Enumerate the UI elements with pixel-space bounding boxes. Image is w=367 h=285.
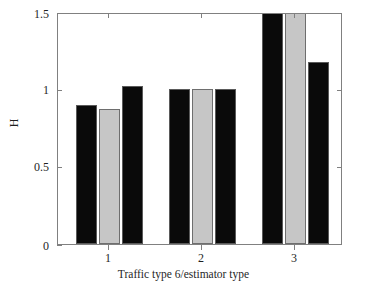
bar-group2-series1 (169, 89, 190, 244)
bar-group2-series2 (192, 89, 213, 244)
ytick-label-1_5: 1.5 (3, 8, 49, 20)
xtick-label-2: 2 (181, 252, 221, 265)
ytick-mark-1_5 (57, 13, 62, 14)
xtick-mark-top-1 (108, 13, 109, 18)
y-axis-title: H (8, 103, 20, 143)
bar-group1-series1 (76, 105, 97, 244)
xtick-mark-1 (108, 245, 109, 250)
ytick-label-1: 1 (3, 84, 49, 96)
bar-chart-figure: 0 0.5 1 1.5 1 2 3 Traffic type 6/estimat… (0, 0, 367, 285)
ytick-mark-right-0_5 (337, 167, 342, 168)
ytick-label-0: 0 (3, 240, 49, 252)
bar-group3-series3 (308, 62, 329, 245)
xtick-mark-top-2 (201, 13, 202, 18)
xtick-label-3: 3 (274, 252, 314, 265)
xtick-label-1: 1 (88, 252, 128, 265)
bar-group3-series2 (285, 13, 306, 244)
bar-group3-series1 (262, 13, 283, 244)
xtick-mark-top-3 (294, 13, 295, 18)
plot-area (57, 13, 342, 245)
ytick-label-0_5: 0.5 (3, 161, 49, 173)
xtick-mark-3 (294, 245, 295, 250)
xtick-mark-2 (201, 245, 202, 250)
ytick-mark-0_5 (57, 167, 62, 168)
ytick-mark-1 (57, 90, 62, 91)
x-axis-title: Traffic type 6/estimator type (0, 268, 367, 281)
ytick-mark-0 (57, 245, 62, 246)
bar-group1-series2 (99, 109, 120, 244)
bar-group2-series3 (215, 89, 236, 244)
bar-group1-series3 (122, 86, 143, 244)
ytick-mark-right-1 (337, 90, 342, 91)
